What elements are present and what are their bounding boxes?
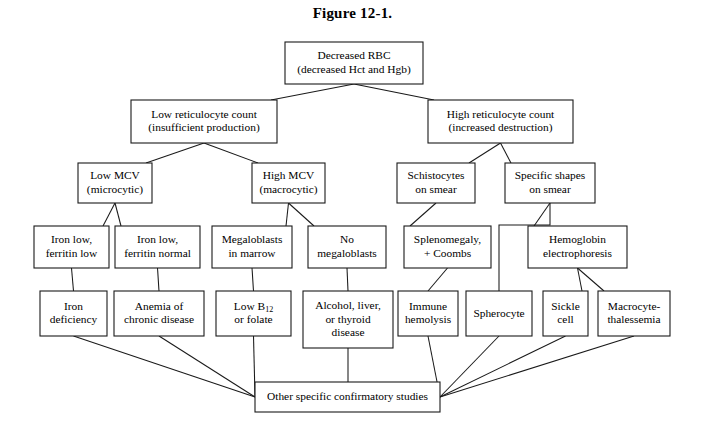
flowchart-svg: Decreased RBC(decreased Hct and Hgb)Low … [0,0,705,437]
connector-high_retic-to-schistocytes [469,143,501,163]
connector-anemia_chronic-to-other_studies [159,336,255,397]
flow-node-low_retic: Low reticulocyte count(insufficient prod… [131,100,277,143]
flow-node-no_megaloblasts: Nomegaloblasts [308,226,386,268]
connector-decreased_rbc-to-low_retic [271,84,354,100]
figure-container: Figure 12-1. Decreased RBC(decreased Hct… [0,0,705,437]
flow-node-low_b12_folate: Low B12or folate [216,291,291,336]
connector-iron_low_fer_low-to-iron_deficiency [72,268,74,291]
flow-node-decreased_rbc: Decreased RBC(decreased Hct and Hgb) [285,42,423,84]
flow-node-macrocyte_thal: Macrocyte-thalessemia [598,291,670,336]
connector-sickle_cell-to-other_studies [440,336,566,397]
connector-low_mcv-to-iron_low_fer_low [103,203,115,226]
node-label: Hemoglobinelectrophoresis [543,233,613,259]
connector-schistocytes-to-splenomegaly [410,203,436,226]
connector-low_mcv-to-iron_low_fer_norm [115,203,121,226]
node-layer: Decreased RBC(decreased Hct and Hgb)Low … [34,42,670,412]
flow-node-hgb_electrophoresis: Hemoglobinelectrophoresis [528,226,627,268]
node-label: Schistocyteson smear [408,169,466,195]
flow-node-anemia_chronic: Anemia ofchronic disease [114,291,204,336]
connector-iron_deficiency-to-other_studies [74,336,256,397]
node-label: Low reticulocyte count(insufficient prod… [148,107,260,134]
node-label: Megaloblastsin marrow [222,233,283,259]
node-label: Macrocyte-thalessemia [607,299,660,325]
node-label: High reticulocyte count(increased destru… [447,107,555,134]
connector-high_mcv-to-megaloblasts [286,203,289,226]
flow-node-schistocytes: Schistocyteson smear [397,163,475,203]
flow-node-sickle_cell: Sicklecell [543,291,588,336]
node-label: Other specific confirmatory studies [267,390,429,402]
connector-high_retic-to-specific_shapes [501,143,512,163]
connector-low_retic-to-low_mcv [146,143,204,163]
node-label: High MCV(macrocytic) [259,169,317,196]
flow-node-megaloblasts: Megaloblastsin marrow [212,226,292,268]
connector-high_mcv-to-no_megaloblasts [289,203,315,226]
flow-node-spherocyte: Spherocyte [466,291,532,336]
node-label: Low MCV(microcytic) [87,169,143,196]
flow-node-iron_low_fer_low: Iron low,ferritin low [34,226,109,268]
connector-iron_low_fer_norm-to-anemia_chronic [158,268,160,291]
connector-no_megaloblasts-to-alcohol_liver_thyroid [347,268,348,291]
connector-megaloblasts-to-low_b12_folate [252,268,254,291]
flow-node-alcohol_liver_thyroid: Alcohol, liver,or thyroiddisease [303,291,393,348]
connector-decreased_rbc-to-high_retic [354,84,434,100]
node-label: Iron low,ferritin low [46,233,98,259]
connector-low_retic-to-high_mcv [204,143,258,163]
flow-node-iron_deficiency: Irondeficiency [40,291,107,336]
flow-node-high_mcv: High MCV(macrocytic) [252,163,325,203]
flow-node-high_retic: High reticulocyte count(increased destru… [428,100,573,143]
flow-node-other_studies: Other specific confirmatory studies [255,382,440,412]
node-label: Immunehemolysis [405,299,452,325]
flow-node-specific_shapes: Specific shapeson smear [505,163,595,203]
connector-specific_shapes-to-hgb_electrophoresis [534,203,550,226]
flow-node-immune_hemolysis: Immunehemolysis [398,291,458,336]
flow-node-splenomegaly: Splenomegaly,+ Coombs [404,226,491,268]
node-label: Spherocyte [473,306,524,318]
flow-node-iron_low_fer_norm: Iron low,ferritin normal [115,226,200,268]
flow-node-low_mcv: Low MCV(microcytic) [78,163,152,203]
connector-splenomegaly-to-immune_hemolysis [428,268,448,291]
